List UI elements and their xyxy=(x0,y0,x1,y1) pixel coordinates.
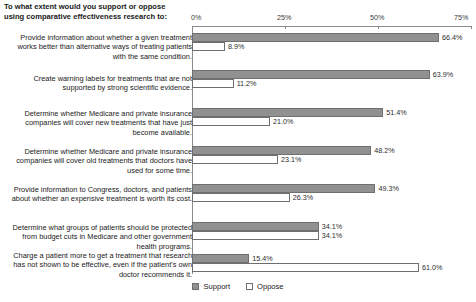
oppose-value-label: 8.9% xyxy=(228,42,244,51)
bar-row: 49.3%26.3% xyxy=(192,184,471,202)
x-tick-label-1: 25% xyxy=(277,13,291,22)
comparative-effectiveness-chart: To what extent would you support or oppo… xyxy=(0,0,476,302)
oppose-bar xyxy=(192,231,319,240)
support-bar xyxy=(192,70,430,79)
bar-row: 48.2%23.1% xyxy=(192,146,471,164)
bar-row: 63.9%11.2% xyxy=(192,70,471,88)
page-title: To what extent would you support or oppo… xyxy=(4,2,186,21)
x-axis-line xyxy=(192,26,471,27)
support-bar xyxy=(192,254,249,263)
category-label: Provide information to Congress, doctors… xyxy=(6,185,192,204)
category-label: Determine what groups of patients should… xyxy=(6,223,192,251)
oppose-bar xyxy=(192,193,290,202)
legend-label-support: Support xyxy=(203,282,230,291)
oppose-bar xyxy=(192,155,278,164)
support-swatch-icon xyxy=(192,283,199,290)
category-label: Determine whether Medicare and private i… xyxy=(6,147,192,175)
support-value-label: 63.9% xyxy=(433,70,453,79)
bar-row: 34.1%34.1% xyxy=(192,222,471,240)
x-tick-1 xyxy=(285,26,286,29)
oppose-value-label: 21.0% xyxy=(273,117,293,126)
x-tick-0 xyxy=(192,26,193,29)
x-tick-label-3: 75% xyxy=(454,13,468,22)
bar-row: 66.4%8.9% xyxy=(192,33,471,51)
oppose-swatch-icon xyxy=(246,283,253,290)
support-value-label: 66.4% xyxy=(442,33,462,42)
plot-area: 0%25%50%75% 66.4%8.9%63.9%11.2%51.4%21.0… xyxy=(192,26,471,274)
support-bar xyxy=(192,146,371,155)
support-bar xyxy=(192,108,383,117)
category-label: Provide information about whether a give… xyxy=(6,33,192,61)
oppose-bar xyxy=(192,42,225,51)
category-label: Determine whether Medicare and private i… xyxy=(6,109,192,137)
category-label: Charge a patient more to get a treatment… xyxy=(6,251,192,279)
support-value-label: 51.4% xyxy=(386,108,406,117)
oppose-value-label: 34.1% xyxy=(322,231,342,240)
legend-item-oppose: Oppose xyxy=(246,282,284,291)
oppose-bar xyxy=(192,263,419,272)
oppose-value-label: 11.2% xyxy=(237,79,257,88)
support-value-label: 15.4% xyxy=(252,254,272,263)
legend-item-support: Support xyxy=(192,282,230,291)
support-bar xyxy=(192,222,319,231)
x-tick-3 xyxy=(471,26,472,29)
bar-row: 51.4%21.0% xyxy=(192,108,471,126)
support-value-label: 48.2% xyxy=(374,146,394,155)
x-tick-label-0: 0% xyxy=(191,13,201,22)
oppose-bar xyxy=(192,79,234,88)
category-label: Create warning labels for treatments tha… xyxy=(6,74,192,93)
x-tick-label-2: 50% xyxy=(370,13,384,22)
oppose-bar xyxy=(192,117,270,126)
oppose-value-label: 26.3% xyxy=(293,193,313,202)
support-bar xyxy=(192,184,375,193)
support-bar xyxy=(192,33,439,42)
bar-row: 15.4%61.0% xyxy=(192,254,471,272)
oppose-value-label: 23.1% xyxy=(281,155,301,164)
chart-legend: Support Oppose xyxy=(0,282,476,291)
legend-label-oppose: Oppose xyxy=(257,282,284,291)
support-value-label: 34.1% xyxy=(322,222,342,231)
x-tick-2 xyxy=(378,26,379,29)
oppose-value-label: 61.0% xyxy=(422,263,442,272)
support-value-label: 49.3% xyxy=(378,184,398,193)
